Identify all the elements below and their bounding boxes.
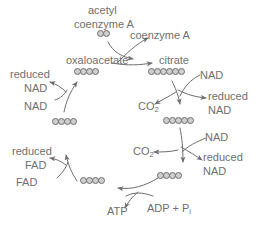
label-reduced-nad-3: reduced	[10, 69, 50, 80]
label-fad: FAD	[16, 177, 37, 188]
label-reduced-nad-2: reduced	[203, 152, 243, 163]
carbon-atom	[187, 117, 194, 124]
carbon-atom	[92, 68, 99, 75]
arrow-reduced-fad-out	[50, 158, 66, 165]
carbon-atom	[178, 68, 185, 75]
arrow-4c-to-bottom	[118, 178, 158, 189]
arrow-adp-in	[126, 193, 153, 196]
label-atp: ATP	[107, 206, 128, 217]
carbon-atom	[175, 172, 182, 179]
pi-subscript: i	[189, 207, 191, 216]
co2-subscript: 2	[155, 105, 159, 114]
co2-text: CO	[133, 145, 150, 157]
arrow-left-to-oxaloacetate	[64, 82, 77, 112]
carbons-four-carbon-intermediate-left	[52, 118, 76, 125]
label-oxaloacetate: oxaloacetate	[66, 55, 128, 66]
label-nad-2: NAD	[205, 132, 228, 143]
carbon-atom	[98, 177, 105, 184]
arrow-reduced-nad-out-3	[50, 82, 66, 92]
carbons-four-carbon-intermediate-right	[157, 172, 181, 179]
label-coenzyme-a-in: coenzyme A	[74, 19, 134, 30]
arrow-reduced-nad-out-2	[181, 147, 202, 160]
label-adp-pi: ADP + Pi	[147, 203, 191, 217]
krebs-cycle-diagram: acetyl coenzyme A coenzyme A oxaloacetat…	[0, 0, 260, 226]
arrow-co2-out-2	[154, 150, 178, 152]
label-co2-2: CO2	[133, 146, 154, 160]
label-reduced-nad-3b: NAD	[24, 83, 47, 94]
label-co2-1: CO2	[138, 101, 159, 115]
carbons-citrate	[148, 68, 184, 75]
carbon-atom	[70, 118, 77, 125]
arrow-5c-to-4c	[180, 128, 183, 162]
label-nad-1: NAD	[200, 70, 223, 81]
label-acetyl: acetyl	[88, 5, 117, 16]
adp-pi-text: ADP + P	[147, 202, 189, 214]
carbons-acetyl-coenzyme-a	[97, 30, 109, 37]
co2-subscript: 2	[150, 150, 154, 159]
label-nad-2b: NAD	[203, 166, 226, 177]
arrow-bottom-to-left	[66, 155, 77, 181]
carbons-four-carbon-intermediate-bottom	[80, 177, 104, 184]
label-coenzyme-a-out: coenzyme A	[130, 30, 190, 41]
label-reduced-fad: reduced	[12, 146, 52, 157]
carbons-five-carbon-intermediate	[163, 117, 193, 124]
label-citrate: citrate	[159, 55, 189, 66]
carbon-atom	[103, 30, 110, 37]
label-nad-1b: NAD	[208, 105, 231, 116]
label-nad-3: NAD	[24, 101, 47, 112]
carbons-oxaloacetate	[74, 68, 98, 75]
arrow-fad-in	[57, 162, 68, 178]
arrow-nad-in-1	[180, 75, 200, 96]
co2-text: CO	[138, 100, 155, 112]
label-reduced-fad-b: FAD	[25, 160, 46, 171]
label-reduced-nad-1: reduced	[208, 91, 248, 102]
